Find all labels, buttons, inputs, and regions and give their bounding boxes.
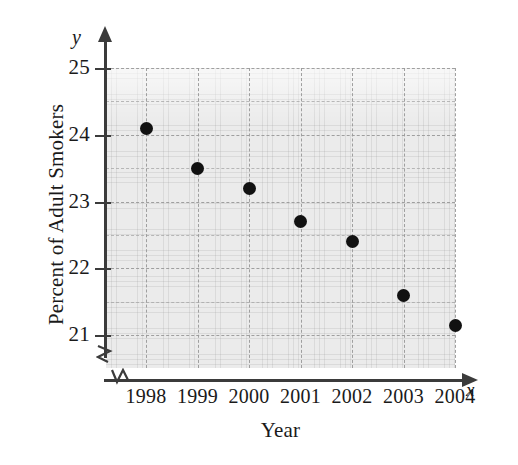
y-tick-22	[95, 268, 111, 270]
scatter-plot-figure: 25 24 23 22 21 1998 1999 2000 2001 2002 …	[0, 0, 518, 465]
y-tick-21	[95, 335, 111, 337]
plot-area	[106, 68, 455, 368]
y-axis-variable-label: y	[72, 26, 81, 49]
gridline-x-2002	[352, 68, 353, 368]
data-point-2000	[243, 182, 256, 195]
y-axis-title: Percent of Adult Smokers	[44, 85, 69, 345]
y-axis-break-icon	[96, 344, 114, 368]
y-tick-label-25: 25	[48, 57, 90, 78]
y-axis-arrow-icon	[98, 26, 112, 42]
data-point-2002	[346, 235, 359, 248]
gridline-x-1999	[198, 68, 199, 368]
data-point-2003	[397, 289, 410, 302]
x-axis-variable-label: x	[466, 379, 474, 401]
x-tick-label-1998: 1998	[117, 385, 175, 407]
y-tick-25	[95, 68, 111, 70]
gridline-x-2003	[404, 68, 405, 368]
x-tick-label-2002: 2002	[323, 385, 381, 407]
x-tick-label-2004: 2004	[426, 385, 484, 407]
data-point-1999	[191, 162, 204, 175]
x-tick-label-1999: 1999	[169, 385, 227, 407]
data-point-1998	[140, 122, 153, 135]
data-point-2001	[294, 215, 307, 228]
gridline-x-2000	[249, 68, 250, 368]
x-tick-label-2000: 2000	[220, 385, 278, 407]
gridline-x-1998	[146, 68, 147, 368]
x-axis-line	[104, 379, 466, 382]
y-tick-23	[95, 202, 111, 204]
x-tick-label-2001: 2001	[272, 385, 330, 407]
data-point-2004	[449, 319, 462, 332]
y-axis-line	[104, 40, 107, 358]
x-tick-label-2003: 2003	[375, 385, 433, 407]
y-tick-24	[95, 135, 111, 137]
x-axis-title: Year	[106, 418, 455, 443]
